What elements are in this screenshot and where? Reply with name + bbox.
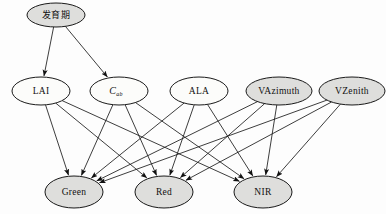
node-lai[interactable]: LAI — [12, 77, 70, 105]
edge-phenology-to-lai — [44, 27, 54, 76]
node-phenology[interactable]: 发育期 — [27, 3, 85, 27]
edge-ala-to-red — [170, 105, 194, 175]
edge-ala-to-green — [91, 103, 184, 178]
node-label-red: Red — [156, 187, 172, 197]
edge-vzenith-to-green — [99, 100, 326, 183]
node-label-green: Green — [62, 187, 87, 197]
node-label-vzenith: VZenith — [335, 86, 369, 96]
node-label-ala: ALA — [189, 86, 209, 96]
graph-canvas: 发育期LAICabALAVAzimuthVZenithGreenRedNIR — [0, 0, 386, 214]
edge-lai-to-red — [56, 103, 147, 178]
edge-lai-to-green — [46, 105, 69, 175]
node-vzenith[interactable]: VZenith — [319, 77, 385, 105]
nodes-layer: 发育期LAICabALAVAzimuthVZenithGreenRedNIR — [12, 3, 385, 208]
edge-cab-to-nir — [135, 103, 244, 179]
edge-phenology-to-cab — [65, 26, 107, 77]
node-ala[interactable]: ALA — [170, 77, 228, 105]
node-vazimuth[interactable]: VAzimuth — [246, 77, 312, 105]
node-red[interactable]: Red — [135, 176, 193, 208]
edge-vzenith-to-red — [186, 102, 332, 180]
node-label-lai: LAI — [33, 86, 50, 96]
node-nir[interactable]: NIR — [234, 176, 292, 208]
edge-vazimuth-to-green — [97, 102, 258, 181]
node-label-phenology: 发育期 — [42, 9, 71, 20]
bayesian-network-diagram: 发育期LAICabALAVAzimuthVZenithGreenRedNIR — [0, 0, 386, 214]
edge-vazimuth-to-nir — [266, 105, 277, 175]
node-label-vazimuth: VAzimuth — [258, 86, 299, 96]
edge-vazimuth-to-red — [180, 104, 264, 178]
node-green[interactable]: Green — [45, 176, 103, 208]
node-label-subscript-cab: ab — [116, 91, 123, 97]
node-label-nir: NIR — [254, 187, 272, 197]
node-cab[interactable]: Cab — [90, 77, 148, 105]
